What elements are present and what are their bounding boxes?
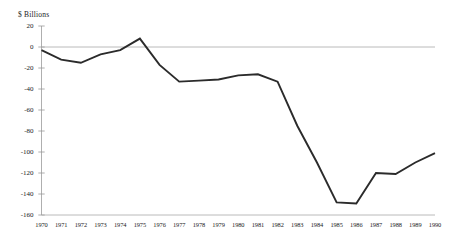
- chart-page: $ Billions 200-20-40-60-80-100-120-140-1…: [0, 0, 449, 243]
- data-line-deficit: [42, 39, 436, 204]
- plot-svg: [0, 0, 449, 243]
- line-chart: $ Billions 200-20-40-60-80-100-120-140-1…: [0, 0, 449, 243]
